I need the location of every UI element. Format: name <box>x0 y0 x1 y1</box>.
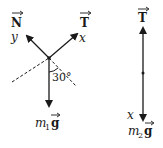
gravity-symbol-2: g <box>144 124 153 138</box>
diagram-canvas: N y T x 30° m 1 g <box>0 0 163 148</box>
incline-dashed-line <box>12 58 49 82</box>
body-1-forces: N y T x 30° m 1 g <box>10 11 91 132</box>
tension-symbol-2: T <box>138 11 147 25</box>
tension-force-arrow-1 <box>49 34 77 58</box>
normal-force-arrow <box>27 36 49 58</box>
x-axis-label-1: x <box>79 31 86 45</box>
tension-label-2: T <box>138 7 149 25</box>
normal-symbol: N <box>11 16 22 30</box>
weight-label-2: m 2 g <box>128 121 154 140</box>
weight-label-1: m 1 g <box>35 113 60 132</box>
body-2-center-dot <box>142 72 145 75</box>
gravity-symbol-1: g <box>51 116 60 130</box>
body-1-origin-dot <box>47 56 51 60</box>
tension-symbol-1: T <box>80 16 89 30</box>
x-axis-label-2: x <box>127 108 134 122</box>
normal-label: N <box>11 11 23 30</box>
y-axis-label: y <box>10 30 18 44</box>
free-body-diagram: N y T x 30° m 1 g <box>0 0 163 148</box>
mass-subscript-2: 2 <box>138 131 143 140</box>
mass-subscript-1: 1 <box>45 123 50 132</box>
tension-label-1: T <box>80 11 91 30</box>
angle-label: 30° <box>52 71 72 84</box>
body-2-forces: T x m 2 g <box>127 7 154 140</box>
